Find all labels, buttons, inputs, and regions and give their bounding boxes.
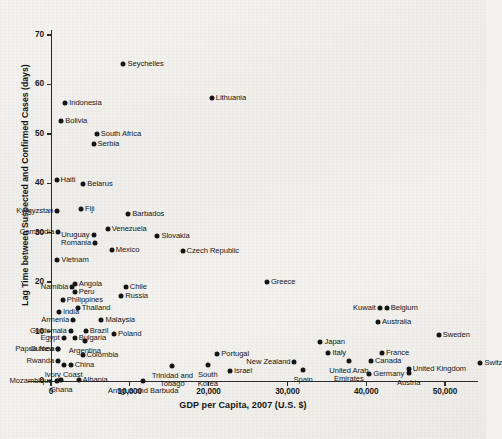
data-point (367, 372, 372, 377)
data-point (56, 359, 61, 364)
data-point (368, 359, 373, 364)
data-point (112, 332, 117, 337)
point-label: Fiji (85, 205, 95, 214)
data-point (377, 306, 382, 311)
point-label: Antigua and Barbuda (108, 387, 178, 395)
data-point (292, 359, 297, 364)
data-point (180, 248, 185, 253)
point-label: Czech Republic (187, 246, 239, 255)
point-label: Colombia (87, 351, 119, 360)
data-point (82, 339, 87, 344)
data-point (71, 317, 76, 322)
point-label: Slovakia (161, 232, 189, 241)
data-point (78, 207, 83, 212)
point-label: Israel (234, 366, 252, 375)
x-tick-50,000 (444, 382, 445, 386)
y-tick-50 (47, 133, 51, 134)
data-point (215, 351, 220, 356)
point-label: Switz (484, 359, 502, 367)
point-label: Mexico (116, 246, 140, 255)
point-label: Greece (271, 278, 296, 287)
data-point (384, 306, 389, 311)
point-label: Spain (294, 376, 313, 385)
point-label: Canada (375, 357, 401, 366)
point-label: Germany (373, 370, 404, 379)
data-point (155, 234, 160, 239)
data-point (91, 232, 96, 237)
data-point (94, 132, 99, 137)
data-point (346, 358, 351, 363)
data-point (123, 285, 128, 290)
data-point (119, 293, 124, 298)
point-label: Japan (324, 338, 344, 347)
point-label: Barbados (132, 210, 164, 219)
data-point (76, 377, 81, 382)
point-label: Namibia (41, 282, 69, 291)
data-point (59, 378, 64, 383)
point-label: Poland (118, 330, 141, 339)
point-label: Italy (332, 349, 346, 358)
data-point (55, 257, 60, 262)
point-label: Indonesia (69, 98, 101, 107)
data-point (63, 100, 68, 105)
data-point (70, 284, 75, 289)
data-point (109, 248, 114, 253)
point-label: Haiti (61, 176, 76, 185)
point-label: Mozambique (10, 376, 53, 385)
data-point (141, 378, 146, 383)
data-point (209, 95, 214, 100)
point-label: Thailand (82, 304, 111, 313)
data-point (406, 371, 411, 376)
point-label: Seychelles (127, 59, 163, 68)
point-label: Venezuela (112, 225, 147, 234)
point-label: Lithuania (216, 93, 246, 102)
data-point (205, 363, 210, 368)
data-point (99, 317, 104, 322)
data-point (68, 328, 73, 333)
data-point (376, 320, 381, 325)
point-label: Egypt (40, 334, 59, 343)
data-point (61, 336, 66, 341)
x-tick-label-40,000: 40,000 (354, 387, 378, 396)
point-label: Albania (83, 375, 108, 384)
data-point (105, 227, 110, 232)
data-point (60, 297, 65, 302)
data-point (54, 178, 59, 183)
point-label: Australia (382, 318, 411, 327)
point-label: Austria (397, 379, 420, 388)
point-label: United Kingdom (413, 365, 466, 374)
point-label: Armenia (41, 315, 69, 324)
data-point (326, 350, 331, 355)
data-point (91, 142, 96, 147)
data-point (478, 361, 483, 366)
data-point (301, 367, 306, 372)
point-label: South Africa (101, 130, 141, 139)
point-label: New Zealand (246, 357, 290, 366)
y-tick-40 (47, 183, 51, 184)
data-point (93, 240, 98, 245)
data-point (61, 362, 66, 367)
point-label: Belgium (391, 304, 418, 313)
point-label: Belarus (87, 179, 112, 188)
x-tick-label-30,000: 30,000 (275, 387, 299, 396)
data-point (56, 346, 61, 351)
data-point (126, 212, 131, 217)
point-label: China (75, 360, 95, 369)
data-point (56, 230, 61, 235)
point-label: SouthKorea (198, 371, 218, 388)
y-tick-70 (47, 34, 51, 35)
y-tick-60 (47, 84, 51, 85)
point-label: Bolivia (65, 116, 87, 125)
y-axis-title: Lag Time between Suspected and Confirmed… (20, 20, 30, 350)
point-label: Sweden (443, 330, 470, 339)
point-label: Serbia (98, 140, 120, 149)
point-label: Vietnam (61, 256, 88, 265)
point-label: Malaysia (105, 315, 135, 324)
point-label: Ghana (50, 386, 73, 395)
point-label: Russia (125, 292, 148, 301)
data-point (54, 378, 59, 383)
data-point (59, 118, 64, 123)
data-point (80, 352, 85, 357)
point-label: Rwanda (27, 357, 55, 366)
